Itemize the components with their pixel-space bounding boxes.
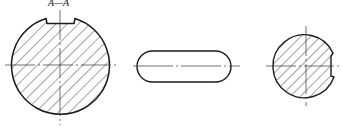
oblong-slot-view [133, 51, 240, 82]
small-section-view [266, 26, 342, 106]
large-section-view [5, 10, 118, 125]
technical-drawing [0, 0, 342, 127]
